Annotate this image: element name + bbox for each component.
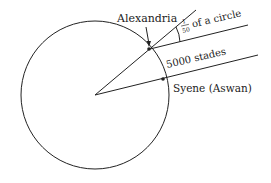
alexandria-point <box>147 47 151 51</box>
syene-label: Syene (Aswan) <box>173 82 252 94</box>
eratosthenes-diagram: Alexandria 1 50 of a circle 5000 stades … <box>0 0 271 183</box>
syene-point <box>161 77 165 81</box>
alexandria-label: Alexandria <box>116 12 178 25</box>
angle-arc <box>176 27 180 42</box>
fraction-label: 1 50 of a circle <box>179 4 242 33</box>
distance-label: 5000 stades <box>165 45 227 69</box>
fraction-text: of a circle <box>191 7 243 29</box>
fraction-denominator: 50 <box>181 25 190 34</box>
sun-ray-at-alexandria <box>150 25 248 49</box>
